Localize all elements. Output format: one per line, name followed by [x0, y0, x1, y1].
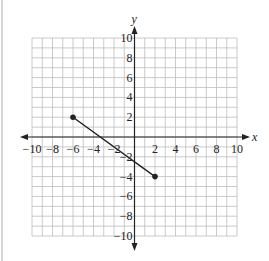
y-tick-label: 4: [127, 90, 133, 104]
x-tick-label: −10: [23, 142, 42, 156]
coordinate-plane: −10−8−6−4−2246810−10−8−6−4−2246810 x y: [0, 0, 269, 261]
y-axis-label: y: [131, 12, 138, 26]
x-axis-label: x: [251, 130, 258, 144]
x-tick-label: 4: [173, 142, 179, 156]
x-tick-label: 10: [231, 142, 243, 156]
x-axis-arrow-left-icon: [20, 134, 28, 140]
y-axis-arrow-down-icon: [132, 243, 138, 251]
y-tick-label: −8: [120, 209, 133, 223]
x-tick-label: 6: [193, 142, 199, 156]
x-tick-label: −4: [87, 142, 100, 156]
endpoint-dot: [152, 174, 158, 180]
x-tick-label: 8: [214, 142, 220, 156]
x-axis-arrow-right-icon: [242, 134, 250, 140]
y-tick-label: 6: [127, 71, 133, 85]
y-tick-label: −10: [114, 229, 133, 243]
axes: [20, 26, 250, 251]
endpoint-dot: [70, 114, 76, 120]
x-tick-label: −8: [46, 142, 59, 156]
x-tick-label: 2: [152, 142, 158, 156]
x-tick-label: −6: [67, 142, 80, 156]
y-tick-label: −6: [120, 189, 133, 203]
image-border: [1, 0, 3, 261]
y-tick-label: 2: [127, 110, 133, 124]
coordinate-plane-figure: −10−8−6−4−2246810−10−8−6−4−2246810 x y: [0, 0, 269, 261]
y-tick-label: −4: [120, 170, 133, 184]
y-tick-label: 10: [121, 31, 133, 45]
y-tick-label: 8: [127, 51, 133, 65]
